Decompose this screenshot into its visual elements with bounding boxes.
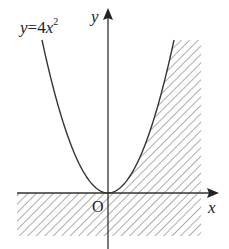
shaded-region-below-axis bbox=[17, 193, 201, 236]
origin-label: O bbox=[92, 198, 104, 215]
curve-label-var: y bbox=[18, 18, 28, 37]
curve-label-exp: 2 bbox=[53, 16, 58, 27]
curve-label-eq: = bbox=[28, 18, 38, 37]
y-axis-label: y bbox=[89, 7, 99, 26]
curve-label: y=4x2 bbox=[18, 16, 58, 37]
diagram-canvas: y=4x2 y x O bbox=[0, 0, 229, 249]
x-axis-label: x bbox=[207, 198, 216, 217]
